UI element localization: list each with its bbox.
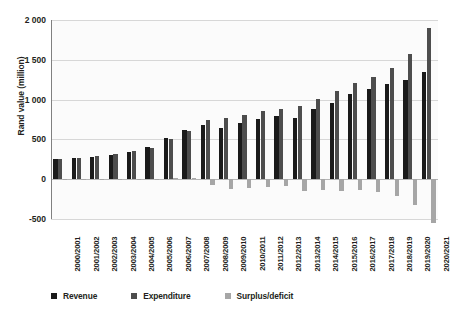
bar-revenue xyxy=(274,116,278,179)
x-axis-tick-label: 2016/2017 xyxy=(368,237,377,272)
x-axis-tick-label: 2012/2013 xyxy=(294,237,303,272)
y-axis-tick-label: 1 000 xyxy=(18,95,46,105)
bar-group xyxy=(162,20,180,219)
bar-deficit xyxy=(395,179,399,196)
x-axis-tick-label: 2005/2006 xyxy=(165,237,174,272)
x-axis-tick-label: 2019/2020 xyxy=(423,237,432,272)
bar-expenditure xyxy=(206,120,210,179)
bar-expenditure xyxy=(242,115,246,179)
bar-deficit xyxy=(229,179,233,189)
bar-deficit xyxy=(192,178,196,179)
bar-group xyxy=(420,20,438,219)
legend-swatch-icon xyxy=(225,293,231,299)
bar-group xyxy=(291,20,309,219)
plot-area xyxy=(51,20,438,219)
x-axis-tick-label: 2002/2003 xyxy=(110,237,119,272)
bar-expenditure xyxy=(224,118,228,179)
bar-deficit xyxy=(81,179,85,180)
bar-deficit xyxy=(376,179,380,192)
bar-revenue xyxy=(72,158,76,179)
x-axis-tick-label: 2001/2002 xyxy=(92,237,101,272)
x-axis-tick-label: 2008/2009 xyxy=(221,237,230,272)
legend-item: Revenue xyxy=(51,291,97,301)
bar-revenue xyxy=(90,157,94,179)
legend-label: Revenue xyxy=(63,291,97,301)
y-axis-tick-label: 2 000 xyxy=(18,15,46,25)
bar-deficit xyxy=(100,179,104,180)
bar-expenditure xyxy=(58,159,62,179)
legend-swatch-icon xyxy=(51,293,57,299)
x-axis-tick-label: 2018/2019 xyxy=(405,237,414,272)
bar-deficit xyxy=(284,179,288,186)
bar-revenue xyxy=(53,159,57,179)
bar-revenue xyxy=(182,130,186,179)
legend-item: Expenditure xyxy=(131,291,190,301)
bar-group xyxy=(125,20,143,219)
x-axis-tick-label: 2009/2010 xyxy=(239,237,248,272)
bar-group xyxy=(364,20,382,219)
bar-expenditure xyxy=(77,158,81,179)
bar-revenue xyxy=(145,147,149,179)
bar-deficit xyxy=(137,179,141,180)
bar-expenditure xyxy=(169,139,173,180)
bar-group xyxy=(88,20,106,219)
bar-revenue xyxy=(238,123,242,179)
bar-deficit xyxy=(339,179,343,191)
bar-group xyxy=(327,20,345,219)
bar-deficit xyxy=(266,179,270,187)
bar-expenditure xyxy=(408,54,412,179)
x-axis-tick-label: 2003/2004 xyxy=(129,237,138,272)
y-axis-tick-label: 500 xyxy=(18,134,46,144)
bar-deficit xyxy=(302,179,306,191)
bar-deficit xyxy=(210,179,214,185)
bar-group xyxy=(69,20,87,219)
bar-deficit xyxy=(63,179,67,180)
bar-group xyxy=(106,20,124,219)
x-axis-tick-label: 2013/2014 xyxy=(313,237,322,272)
bar-revenue xyxy=(164,138,168,179)
x-axis-tick-label: 2007/2008 xyxy=(202,237,211,272)
y-axis-tick-labels: 2 0001 5001 0005000-500 xyxy=(18,0,46,319)
bar-revenue xyxy=(385,84,389,179)
bar-expenditure xyxy=(316,99,320,179)
bar-group xyxy=(235,20,253,219)
bar-group xyxy=(217,20,235,219)
bar-expenditure xyxy=(132,151,136,179)
bar-group xyxy=(272,20,290,219)
bar-revenue xyxy=(127,152,131,179)
x-axis-tick-label: 2017/2018 xyxy=(387,237,396,272)
bar-group xyxy=(383,20,401,219)
bar-expenditure xyxy=(113,154,117,179)
bar-group xyxy=(346,20,364,219)
bar-deficit xyxy=(413,179,417,205)
bar-expenditure xyxy=(371,77,375,180)
bar-revenue xyxy=(201,125,205,179)
bar-revenue xyxy=(293,118,297,179)
bar-deficit xyxy=(155,179,159,180)
x-axis-tick-label: 2004/2005 xyxy=(147,237,156,272)
bar-revenue xyxy=(330,103,334,179)
bar-group xyxy=(401,20,419,219)
x-axis-tick-labels: 2000/20012001/20022002/20032003/20042004… xyxy=(51,219,438,285)
bar-group xyxy=(198,20,216,219)
bar-revenue xyxy=(256,119,260,179)
bar-group xyxy=(180,20,198,219)
bar-expenditure xyxy=(95,156,99,179)
bar-expenditure xyxy=(427,28,431,179)
bar-deficit xyxy=(247,179,251,188)
x-axis-tick-label: 2000/2001 xyxy=(73,237,82,272)
x-axis-tick-label: 2006/2007 xyxy=(184,237,193,272)
bar-deficit xyxy=(173,178,177,179)
legend-swatch-icon xyxy=(131,293,137,299)
chart-legend: RevenueExpenditureSurplus/deficit xyxy=(51,288,381,304)
bar-group xyxy=(143,20,161,219)
bar-expenditure xyxy=(298,106,302,179)
bar-revenue xyxy=(367,89,371,179)
bar-revenue xyxy=(422,72,426,179)
legend-label: Surplus/deficit xyxy=(237,291,294,301)
x-axis-tick-label: 2014/2015 xyxy=(331,237,340,272)
y-axis-tick-label: -500 xyxy=(18,214,46,224)
bar-group xyxy=(309,20,327,219)
bar-revenue xyxy=(219,128,223,179)
